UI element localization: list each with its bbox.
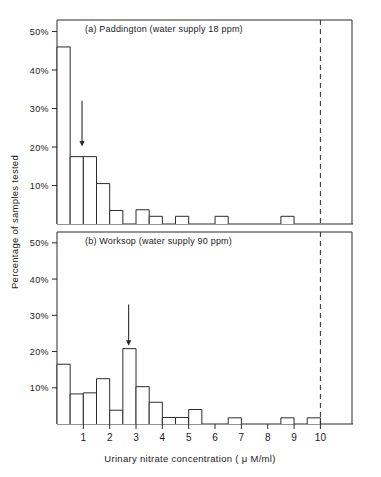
- xtick-label-0: 1: [81, 432, 87, 443]
- panel-title-0: (a) Paddington (water supply 18 ppm): [85, 24, 243, 34]
- histogram-bar: [57, 47, 70, 224]
- histogram-bar: [57, 364, 70, 424]
- histogram-bar: [136, 387, 149, 424]
- figure-container: 10%20%30%40%50%(a) Paddington (water sup…: [0, 0, 381, 477]
- xtick-label-9: 10: [315, 432, 327, 443]
- xtick-label-1: 2: [107, 432, 113, 443]
- ytick-label-1-4: 50%: [30, 238, 49, 248]
- histogram-bar: [70, 157, 83, 224]
- xtick-label-2: 3: [133, 432, 139, 443]
- histogram-bar: [176, 417, 189, 424]
- x-axis-title: Urinary nitrate concentration ( μ M/ml): [104, 453, 275, 464]
- xtick-label-5: 6: [212, 432, 218, 443]
- xtick-label-3: 4: [160, 432, 166, 443]
- histogram-bar: [281, 216, 294, 224]
- y-axis-title: Percentage of samples tested: [9, 155, 20, 289]
- ytick-label-0-0: 10%: [30, 181, 49, 191]
- xtick-label-8: 9: [291, 432, 297, 443]
- ytick-label-1-3: 40%: [30, 275, 49, 285]
- ytick-label-1-2: 30%: [30, 311, 49, 321]
- histogram-bar: [162, 417, 175, 424]
- ytick-label-0-4: 50%: [30, 27, 49, 37]
- histogram-bar: [228, 418, 241, 424]
- mean-arrow-head-0: [79, 141, 84, 147]
- histogram-bar: [123, 349, 136, 424]
- histogram-bar: [307, 418, 320, 424]
- ytick-label-0-3: 40%: [30, 66, 49, 76]
- histogram-bar: [83, 393, 96, 424]
- histogram-bar: [70, 394, 83, 424]
- xtick-label-4: 5: [186, 432, 192, 443]
- histogram-bar: [136, 210, 149, 224]
- histogram-bar: [189, 410, 202, 424]
- histogram-bar: [149, 402, 162, 424]
- histogram-bar: [176, 216, 189, 224]
- histogram-bar: [215, 216, 228, 224]
- ytick-label-0-2: 30%: [30, 104, 49, 114]
- panel-title-1: (b) Worksop (water supply 90 ppm): [85, 236, 232, 246]
- histogram-bar: [110, 211, 123, 224]
- ytick-label-1-1: 20%: [30, 347, 49, 357]
- xtick-label-7: 8: [265, 432, 271, 443]
- histogram-figure: 10%20%30%40%50%(a) Paddington (water sup…: [0, 0, 381, 477]
- mean-arrow-head-1: [126, 340, 131, 346]
- histogram-bar: [97, 184, 110, 224]
- xtick-label-6: 7: [239, 432, 245, 443]
- histogram-bar: [97, 379, 110, 424]
- histogram-bar: [83, 157, 96, 224]
- histogram-bar: [281, 418, 294, 424]
- histogram-bar: [110, 410, 123, 424]
- histogram-bar: [149, 216, 162, 224]
- ytick-label-1-0: 10%: [30, 383, 49, 393]
- ytick-label-0-1: 20%: [30, 143, 49, 153]
